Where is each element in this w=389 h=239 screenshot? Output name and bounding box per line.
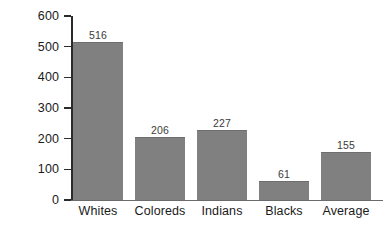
- y-axis-tick-label: 0: [0, 194, 59, 207]
- x-axis-category-label: Whites: [65, 205, 131, 218]
- y-axis-tick-label: 300: [0, 102, 59, 115]
- y-axis-tick: [64, 169, 71, 171]
- x-axis-category-label: Blacks: [251, 205, 317, 218]
- bar[interactable]: [73, 42, 123, 200]
- bar-value-label: 155: [315, 140, 377, 151]
- y-axis-tick: [64, 15, 71, 17]
- y-axis-tick-label: 100: [0, 163, 59, 176]
- bar-value-label: 206: [129, 125, 191, 136]
- y-axis-tick: [64, 138, 71, 140]
- bar-value-label: 516: [67, 30, 129, 41]
- bar-value-label: 227: [191, 118, 253, 129]
- y-axis-tick-label: 400: [0, 71, 59, 84]
- y-axis-tick-label: 500: [0, 41, 59, 54]
- bar-chart: Rand 6005004003002001000 51620622761155 …: [0, 0, 389, 239]
- x-axis-category-label: Average: [313, 205, 379, 218]
- x-axis-category-label: Indians: [189, 205, 255, 218]
- plot-area: [73, 16, 383, 200]
- bar[interactable]: [135, 137, 185, 200]
- y-axis-tick-label: 600: [0, 10, 59, 23]
- bar[interactable]: [259, 181, 309, 200]
- bar[interactable]: [321, 152, 371, 200]
- bar-value-label: 61: [253, 169, 315, 180]
- y-axis-tick: [64, 199, 71, 201]
- y-axis-tick: [64, 77, 71, 79]
- y-axis-tick-label: 200: [0, 133, 59, 146]
- x-axis-category-label: Coloreds: [127, 205, 193, 218]
- bar[interactable]: [197, 130, 247, 200]
- y-axis-tick: [64, 46, 71, 48]
- y-axis-tick: [64, 107, 71, 109]
